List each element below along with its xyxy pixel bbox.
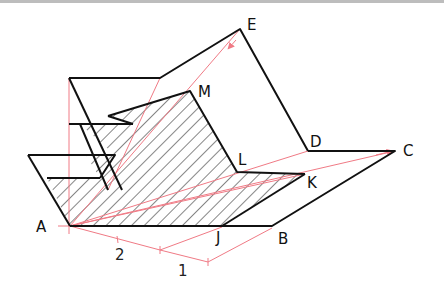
dimension-labels: 2 1 (115, 246, 188, 280)
label-D: D (310, 133, 322, 151)
label-E: E (247, 16, 256, 34)
dimension-label-2: 2 (115, 246, 125, 264)
label-K: K (307, 174, 318, 192)
dimension-link-J (160, 227, 222, 250)
dimension-segment-1 (160, 250, 208, 262)
dimension-label-1: 1 (178, 262, 188, 280)
label-B: B (278, 230, 288, 248)
label-M: M (198, 83, 211, 101)
label-L: L (238, 151, 247, 169)
dimension-tick (117, 236, 118, 243)
label-C: C (403, 142, 413, 160)
label-J: J (215, 229, 220, 247)
label-A: A (36, 218, 47, 236)
geometry-diagram: A B C D E M L K J 2 1 (0, 0, 444, 284)
